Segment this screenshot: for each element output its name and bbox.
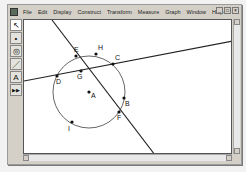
scroll-left-button[interactable]: [23, 155, 29, 161]
scroll-down-button[interactable]: [234, 148, 240, 154]
line-through-E-F[interactable]: [52, 20, 155, 154]
menu-construct[interactable]: Construct: [74, 9, 104, 15]
horizontal-scrollbar[interactable]: [23, 154, 232, 161]
point-label-I: I: [68, 125, 70, 132]
minimize-button[interactable]: _: [216, 7, 223, 14]
custom-tool-icon[interactable]: ▶▶: [10, 84, 22, 96]
app-icon[interactable]: [10, 8, 18, 16]
point-label-G: G: [77, 73, 82, 80]
geometry-figure[interactable]: ABCDEFGHI: [24, 20, 232, 154]
sketch-canvas[interactable]: ABCDEFGHI: [23, 19, 232, 154]
menu-graph[interactable]: Graph: [162, 9, 183, 15]
scroll-up-button[interactable]: [234, 19, 240, 25]
point-H[interactable]: [94, 52, 97, 55]
line-through-D-C[interactable]: [24, 41, 232, 81]
point-label-H: H: [98, 44, 103, 51]
point-label-C: C: [115, 54, 120, 61]
point-label-B: B: [125, 100, 130, 107]
toolbox: ↖ • ◎ ／ A ▶▶: [10, 19, 22, 97]
menu-edit[interactable]: Edit: [35, 9, 50, 15]
point-label-A: A: [91, 92, 96, 99]
menu-measure[interactable]: Measure: [135, 9, 162, 15]
text-tool-icon[interactable]: A: [10, 71, 22, 83]
point-label-F: F: [117, 114, 121, 121]
menu-window[interactable]: Window: [184, 9, 210, 15]
point-label-D: D: [56, 78, 61, 85]
menu-bar: File Edit Display Construct Transform Me…: [8, 5, 241, 18]
menu-file[interactable]: File: [20, 9, 35, 15]
scroll-right-button[interactable]: [226, 155, 232, 161]
close-button[interactable]: ×: [232, 7, 239, 14]
arrow-tool-icon[interactable]: ↖: [10, 19, 22, 31]
compass-tool-icon[interactable]: ◎: [10, 45, 22, 57]
sketchpad-window: File Edit Display Construct Transform Me…: [7, 4, 242, 165]
window-controls: _ □ ×: [216, 7, 239, 14]
straightedge-tool-icon[interactable]: ／: [10, 58, 22, 70]
point-I[interactable]: [70, 120, 73, 123]
point-C[interactable]: [111, 62, 114, 65]
menu-display[interactable]: Display: [50, 9, 74, 15]
vertical-scrollbar[interactable]: [233, 19, 240, 154]
point-E[interactable]: [74, 54, 77, 57]
maximize-button[interactable]: □: [224, 7, 231, 14]
point-tool-icon[interactable]: •: [10, 32, 22, 44]
menu-transform[interactable]: Transform: [104, 9, 135, 15]
point-label-E: E: [74, 46, 79, 53]
